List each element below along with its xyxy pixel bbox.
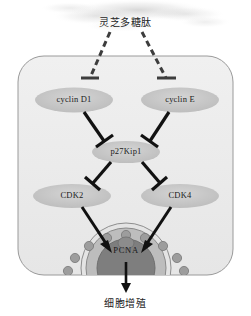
node-cyclin-d1: [35, 88, 113, 113]
smoke-texture: [40, 0, 231, 32]
node-cyclin-e: [141, 88, 219, 113]
diagram-canvas: [0, 0, 251, 316]
pathway-diagram: 灵芝多糖肽 cyclin D1 cyclin E p27Kip1 CDK2 CD…: [0, 0, 251, 316]
